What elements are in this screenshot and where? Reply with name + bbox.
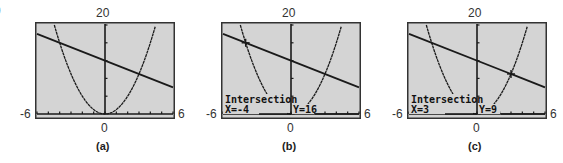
x-min-label: -6 (20, 108, 31, 120)
x-max-label: 6 (364, 108, 371, 120)
calculator-screen (35, 22, 175, 119)
y-max-label: 20 (282, 7, 295, 19)
x-value-readout: X=-4 (225, 104, 249, 115)
x-min-label: -6 (206, 108, 217, 120)
x-min-label: -6 (392, 108, 403, 120)
caption: (a) (96, 140, 109, 152)
panel-a: 20 -6 6 0 (a) (0, 0, 190, 163)
y-max-label: 20 (96, 7, 109, 19)
y-max-label: 20 (468, 7, 481, 19)
x-max-label: 6 (178, 108, 185, 120)
calculator-screen: IntersectionX=-4Y=16 (221, 22, 361, 119)
x-value-readout: X=3 (411, 104, 429, 115)
caption: (c) (468, 140, 481, 152)
panel-b: 20 -6 6 0 (b) IntersectionX=-4Y=16 (186, 0, 376, 163)
x-zero-label: 0 (287, 122, 294, 134)
x-zero-label: 0 (101, 122, 108, 134)
panel-c: 20 -6 6 0 (c) IntersectionX=3Y=9 (372, 0, 562, 163)
x-zero-label: 0 (473, 122, 480, 134)
x-max-label: 6 (550, 108, 557, 120)
y-value-readout: Y=16 (293, 104, 317, 115)
y-value-readout: Y=9 (479, 104, 497, 115)
calculator-screen: IntersectionX=3Y=9 (407, 22, 547, 119)
caption: (b) (282, 140, 296, 152)
